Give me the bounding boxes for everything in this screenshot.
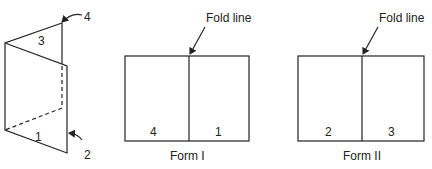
panel-label-4: 4: [84, 10, 91, 24]
form-two-caption: Form II: [343, 149, 381, 163]
form-one-left-page: 4: [150, 125, 157, 139]
form-two-sheet: [298, 27, 424, 141]
form-one-sheet: [125, 27, 249, 141]
arrow-to-panel-4: [62, 14, 82, 22]
panel-label-3: 3: [38, 34, 45, 48]
form-one-right-page: 1: [215, 125, 222, 139]
arrow-to-panel-2: [69, 133, 82, 140]
form-one-caption: Form I: [170, 149, 205, 163]
form-one-fold-label: Fold line: [206, 11, 252, 25]
form-two-right-page: 3: [388, 125, 395, 139]
form-two-fold-arrow: [363, 27, 378, 54]
folding-diagram: 3 1 4 2 Fold line 4 1 Form I Fold line 2…: [0, 0, 432, 169]
panel-label-1: 1: [35, 130, 42, 144]
form-one-fold-arrow: [190, 27, 205, 54]
panel-label-2: 2: [84, 148, 91, 162]
form-two-fold-label: Fold line: [379, 11, 425, 25]
form-two-left-page: 2: [325, 125, 332, 139]
